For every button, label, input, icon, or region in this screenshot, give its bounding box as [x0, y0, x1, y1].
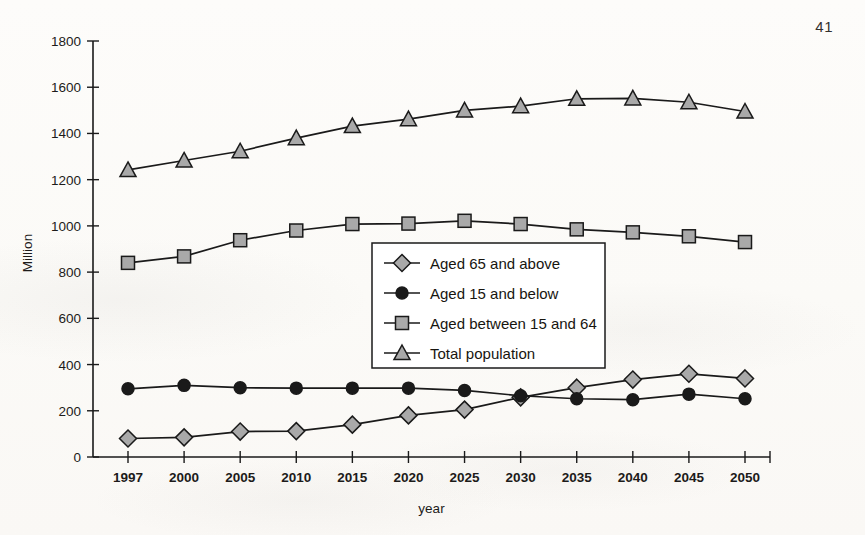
marker-circle [459, 384, 471, 396]
marker-square [682, 230, 695, 243]
chart-svg: 020040060080010001200140016001800 199720… [0, 0, 865, 535]
series-line [128, 385, 745, 399]
legend-label: Aged between 15 and 64 [430, 315, 597, 332]
y-tick-label: 1000 [51, 219, 81, 234]
y-tick-label: 800 [58, 265, 81, 280]
legend-label: Aged 15 and below [430, 285, 559, 302]
x-tick-label: 2015 [337, 470, 368, 485]
x-tick-label: 2025 [450, 470, 481, 485]
x-tick-label: 2000 [169, 470, 199, 485]
marker-square [290, 224, 303, 237]
marker-square [626, 226, 639, 239]
marker-diamond [176, 429, 193, 446]
marker-square [570, 223, 583, 236]
y-axis-title: Million [20, 234, 35, 272]
marker-square [458, 214, 471, 227]
marker-circle [122, 383, 134, 395]
marker-square [122, 256, 135, 269]
y-tick-label: 600 [58, 311, 81, 326]
marker-circle [290, 382, 302, 394]
marker-circle [571, 393, 583, 405]
marker-diamond [456, 401, 473, 418]
y-tick-label: 1800 [51, 34, 81, 49]
marker-diamond [232, 423, 249, 440]
marker-square [346, 218, 359, 231]
population-projection-chart: 020040060080010001200140016001800 199720… [0, 0, 865, 535]
marker-circle [627, 394, 639, 406]
series-line [128, 98, 745, 170]
marker-square [402, 217, 415, 230]
y-tick-label: 1400 [51, 126, 81, 141]
marker-circle [515, 390, 527, 402]
marker-diamond [624, 371, 641, 388]
x-tick-label: 1997 [113, 470, 143, 485]
marker-diamond [344, 416, 361, 433]
y-tick-label: 1200 [51, 173, 81, 188]
marker-square [514, 218, 527, 231]
marker-diamond [680, 365, 697, 382]
x-axis: 1997200020052010201520202025203020352040… [93, 451, 770, 485]
y-tick-label: 400 [58, 358, 81, 373]
series-2 [122, 379, 751, 405]
marker-circle [402, 382, 414, 394]
marker-circle [178, 379, 190, 391]
marker-circle [396, 287, 408, 299]
marker-diamond [120, 430, 137, 447]
x-tick-label: 2010 [281, 470, 311, 485]
x-tick-label: 2045 [674, 470, 705, 485]
marker-circle [683, 388, 695, 400]
series-line [128, 374, 745, 439]
marker-diamond [737, 370, 754, 387]
marker-circle [346, 382, 358, 394]
y-axis: 020040060080010001200140016001800 [51, 34, 99, 465]
y-tick-label: 0 [73, 450, 81, 465]
x-axis-title: year [418, 501, 445, 516]
chart-legend: Aged 65 and aboveAged 15 and belowAged b… [372, 243, 605, 368]
marker-circle [739, 393, 751, 405]
marker-square [396, 317, 409, 330]
marker-circle [234, 382, 246, 394]
marker-square [178, 250, 191, 263]
legend-label: Aged 65 and above [430, 255, 560, 272]
legend-label: Total population [430, 345, 535, 362]
marker-diamond [288, 423, 305, 440]
y-tick-label: 200 [58, 404, 81, 419]
marker-diamond [400, 407, 417, 424]
x-tick-label: 2030 [506, 470, 536, 485]
series-1 [120, 365, 754, 447]
x-tick-label: 2035 [562, 470, 593, 485]
y-tick-label: 1600 [51, 80, 81, 95]
x-tick-label: 2020 [393, 470, 423, 485]
x-tick-label: 2050 [730, 470, 760, 485]
x-tick-label: 2005 [225, 470, 256, 485]
marker-square [739, 236, 752, 249]
series-4 [120, 90, 753, 176]
marker-square [234, 234, 247, 247]
x-tick-label: 2040 [618, 470, 648, 485]
